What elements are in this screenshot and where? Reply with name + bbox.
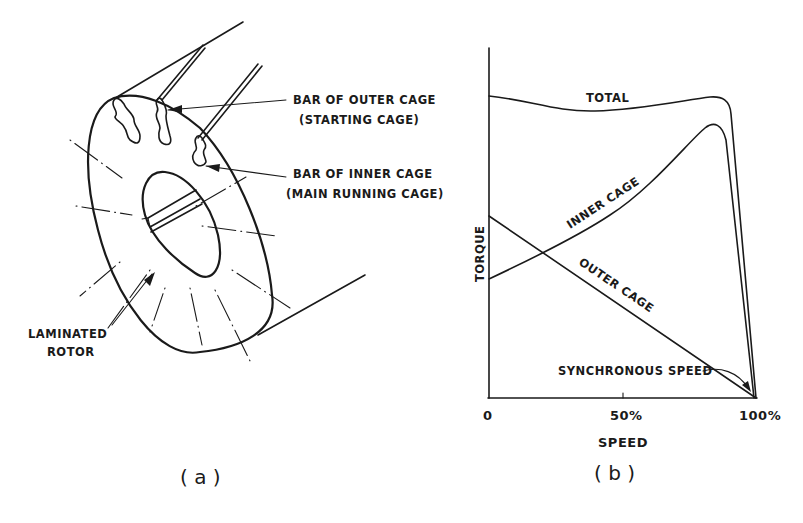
- shaft-keyway-line-3: [151, 204, 202, 232]
- label-outer-cage: OUTER CAGE: [576, 255, 656, 315]
- figure-container: BAR OF OUTER CAGE (STARTING CAGE) BAR OF…: [0, 0, 803, 523]
- label-total: TOTAL: [586, 91, 629, 105]
- label-inner-bar-1: BAR OF INNER CAGE: [293, 167, 433, 181]
- label-inner-bar-2: (MAIN RUNNING CAGE): [286, 187, 444, 201]
- label-outer-bar-2: (STARTING CAGE): [299, 113, 419, 127]
- rotor-bottom-tangent: [258, 275, 365, 335]
- inner-cage-bar-rod-a: [198, 64, 258, 138]
- curve-inner-cage: [489, 124, 754, 398]
- leader-inner-cage: [206, 164, 286, 177]
- inner-cage-slot: [193, 136, 206, 166]
- torque-speed-chart: TOTAL INNER CAGE OUTER CAGE SYNCHRONOUS …: [473, 48, 781, 485]
- figure-canvas: BAR OF OUTER CAGE (STARTING CAGE) BAR OF…: [0, 0, 803, 523]
- rotor-diagram: BAR OF OUTER CAGE (STARTING CAGE) BAR OF…: [28, 22, 444, 489]
- caption-b: ( b ): [594, 461, 635, 485]
- x-axis-label: SPEED: [598, 435, 648, 450]
- outer-cage-bar-rod-a: [157, 45, 203, 100]
- leader-rotor: [112, 272, 155, 325]
- outer-cage-slot-1: [113, 98, 140, 143]
- x-tick-100: 100%: [739, 408, 781, 423]
- label-synchronous-speed: SYNCHRONOUS SPEED: [558, 364, 712, 378]
- outer-cage-bar-rod-b: [162, 48, 205, 100]
- label-rotor-1: LAMINATED: [28, 327, 107, 341]
- rotor-outer-edge: [88, 96, 273, 353]
- y-axis-label: TORQUE: [473, 226, 487, 282]
- curve-total: [489, 96, 756, 398]
- caption-a: ( a ): [180, 465, 221, 489]
- label-outer-bar-1: BAR OF OUTER CAGE: [293, 93, 436, 107]
- rotor-top-tangent: [117, 22, 243, 97]
- label-rotor-2: ROTOR: [47, 345, 95, 359]
- label-inner-cage: INNER CAGE: [564, 174, 642, 231]
- x-tick-0: 0: [483, 408, 493, 423]
- x-tick-50-label: 50%: [610, 408, 643, 423]
